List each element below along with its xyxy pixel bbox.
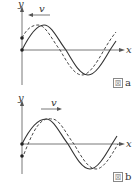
velocity-label: v — [39, 4, 45, 14]
figure-b-caption: 図 b — [113, 172, 131, 182]
x-axis-label: x — [126, 139, 132, 149]
figure-mark-icon: 図 — [113, 78, 123, 88]
origin-dot — [20, 142, 24, 146]
y-axis-label: y — [18, 93, 24, 103]
figure-b: y v x 図 b — [0, 94, 139, 189]
dashed-start-dot — [20, 154, 24, 158]
dashed-start-dot — [20, 36, 24, 40]
x-axis-arrow-icon — [119, 142, 125, 146]
velocity-arrowhead-icon — [28, 13, 33, 17]
figure-letter: a — [125, 78, 131, 88]
figure-a: y v x 図 a — [0, 0, 139, 95]
figure-mark-icon: 図 — [113, 172, 123, 182]
velocity-label: v — [51, 98, 57, 108]
figure-a-caption: 図 a — [113, 78, 131, 88]
velocity-arrowhead-icon — [57, 107, 62, 111]
x-axis-arrow-icon — [119, 48, 125, 52]
x-axis-label: x — [126, 45, 132, 55]
origin-dot — [20, 48, 24, 52]
figure-letter: b — [125, 172, 131, 182]
y-axis-label: y — [18, 0, 24, 9]
